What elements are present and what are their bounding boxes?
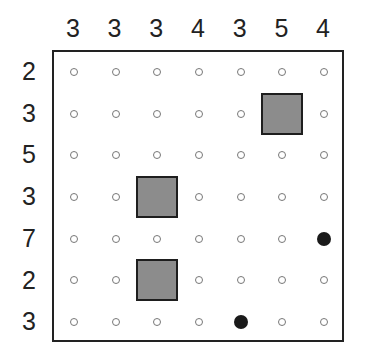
empty-circle-icon: [237, 151, 245, 159]
empty-circle-icon: [195, 68, 203, 76]
ship-dot-icon: [234, 315, 248, 329]
empty-circle-icon: [195, 151, 203, 159]
grid-cell[interactable]: [303, 260, 345, 302]
grid-cell[interactable]: [53, 301, 95, 343]
row-clue: 2: [14, 57, 44, 85]
grid-cell[interactable]: [262, 301, 304, 343]
grid-cell[interactable]: [136, 176, 178, 218]
grid-cell[interactable]: [136, 93, 178, 135]
empty-circle-icon: [278, 235, 286, 243]
grid-cell[interactable]: [262, 93, 304, 135]
grid-cell[interactable]: [262, 176, 304, 218]
grid-cell[interactable]: [220, 218, 262, 260]
grid-cell[interactable]: [95, 134, 137, 176]
ship-segment-block-icon: [261, 93, 303, 135]
grid-cell[interactable]: [303, 93, 345, 135]
empty-circle-icon: [237, 110, 245, 118]
grid-cell[interactable]: [53, 260, 95, 302]
empty-circle-icon: [112, 68, 120, 76]
column-clue: 4: [302, 14, 344, 42]
grid-cell[interactable]: [53, 134, 95, 176]
grid-cell[interactable]: [303, 301, 345, 343]
empty-circle-icon: [278, 318, 286, 326]
grid-cell[interactable]: [178, 301, 220, 343]
empty-circle-icon: [112, 151, 120, 159]
column-clue: 3: [219, 14, 261, 42]
grid-cell[interactable]: [136, 134, 178, 176]
empty-circle-icon: [320, 68, 328, 76]
row-clue: 5: [14, 140, 44, 168]
empty-circle-icon: [320, 151, 328, 159]
grid-cell[interactable]: [95, 93, 137, 135]
ship-dot-icon: [317, 232, 331, 246]
row-clue: 3: [14, 307, 44, 335]
empty-circle-icon: [112, 235, 120, 243]
grid-cell[interactable]: [53, 93, 95, 135]
empty-circle-icon: [278, 276, 286, 284]
column-clue: 3: [52, 14, 94, 42]
grid-cell[interactable]: [262, 134, 304, 176]
empty-circle-icon: [70, 318, 78, 326]
empty-circle-icon: [195, 110, 203, 118]
grid-cell[interactable]: [220, 301, 262, 343]
empty-circle-icon: [237, 276, 245, 284]
grid-cell[interactable]: [136, 260, 178, 302]
empty-circle-icon: [153, 235, 161, 243]
empty-circle-icon: [237, 235, 245, 243]
grid-cell[interactable]: [53, 51, 95, 93]
grid-cell[interactable]: [178, 93, 220, 135]
empty-circle-icon: [195, 235, 203, 243]
grid-cell[interactable]: [262, 218, 304, 260]
grid-cell[interactable]: [220, 134, 262, 176]
empty-circle-icon: [153, 151, 161, 159]
grid-cell[interactable]: [53, 218, 95, 260]
row-clue: 7: [14, 224, 44, 252]
grid-cell[interactable]: [178, 176, 220, 218]
ship-segment-block-icon: [136, 176, 178, 218]
row-clue: 3: [14, 99, 44, 127]
empty-circle-icon: [195, 193, 203, 201]
empty-circle-icon: [237, 193, 245, 201]
grid-cell[interactable]: [136, 218, 178, 260]
grid-cell[interactable]: [303, 218, 345, 260]
empty-circle-icon: [70, 193, 78, 201]
empty-circle-icon: [70, 151, 78, 159]
grid-cell[interactable]: [262, 51, 304, 93]
grid-cell[interactable]: [303, 134, 345, 176]
grid-cell[interactable]: [95, 260, 137, 302]
empty-circle-icon: [153, 110, 161, 118]
empty-circle-icon: [195, 318, 203, 326]
grid-cell[interactable]: [220, 260, 262, 302]
empty-circle-icon: [112, 193, 120, 201]
empty-circle-icon: [112, 276, 120, 284]
grid-cell[interactable]: [220, 51, 262, 93]
grid-cell[interactable]: [262, 260, 304, 302]
column-clue: 3: [135, 14, 177, 42]
grid-cell[interactable]: [95, 301, 137, 343]
empty-circle-icon: [70, 235, 78, 243]
grid-cell[interactable]: [136, 51, 178, 93]
grid-cell[interactable]: [178, 134, 220, 176]
grid-cell[interactable]: [95, 176, 137, 218]
empty-circle-icon: [320, 276, 328, 284]
empty-circle-icon: [112, 110, 120, 118]
empty-circle-icon: [320, 318, 328, 326]
grid-cell[interactable]: [95, 51, 137, 93]
grid-cell[interactable]: [178, 260, 220, 302]
empty-circle-icon: [278, 151, 286, 159]
empty-circle-icon: [153, 318, 161, 326]
grid-cell[interactable]: [220, 93, 262, 135]
grid-cell[interactable]: [178, 51, 220, 93]
row-clue: 2: [14, 266, 44, 294]
empty-circle-icon: [237, 68, 245, 76]
empty-circle-icon: [70, 68, 78, 76]
grid-cell[interactable]: [303, 176, 345, 218]
grid-cell[interactable]: [178, 218, 220, 260]
grid-cell[interactable]: [220, 176, 262, 218]
empty-circle-icon: [278, 68, 286, 76]
grid-cell[interactable]: [303, 51, 345, 93]
grid-cell[interactable]: [136, 301, 178, 343]
grid-cell[interactable]: [95, 218, 137, 260]
empty-circle-icon: [320, 110, 328, 118]
grid-cell[interactable]: [53, 176, 95, 218]
